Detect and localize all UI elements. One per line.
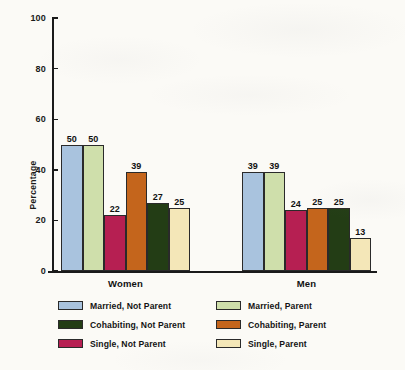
y-tick-mark [52,68,58,69]
legend-label: Cohabiting, Parent [248,320,326,330]
bar: 25 [169,208,191,271]
bar-value-label: 22 [110,204,120,214]
bar-value-label: 39 [131,161,141,171]
legend-item: Married, Not Parent [58,296,210,315]
bar: 25 [307,208,329,271]
legend-swatch [216,339,241,348]
bar: 50 [83,145,105,272]
bar: 39 [242,172,264,271]
legend-swatch [216,301,241,310]
bar-value-label: 25 [174,197,184,207]
bar: 39 [264,172,286,271]
bar: 27 [147,203,169,271]
bar-value-label: 50 [88,134,98,144]
bar-value-label: 25 [334,197,344,207]
bar: 24 [285,210,307,271]
legend-item: Single, Parent [216,334,368,353]
y-tick-mark [52,119,58,120]
y-tick-mark [52,220,58,221]
bar-value-label: 24 [291,199,301,209]
legend-label: Single, Parent [248,339,307,349]
legend-label: Married, Parent [248,301,312,311]
bar: 13 [350,238,372,271]
bar: 22 [104,215,126,271]
y-tick-mark [52,169,58,170]
y-tick-label: 60 [36,114,46,124]
legend-swatch [216,320,241,329]
bar-value-label: 13 [355,227,365,237]
legend-swatch [58,339,83,348]
bar: 25 [328,208,350,271]
legend-item: Married, Parent [216,296,368,315]
y-axis-line [52,18,54,271]
bar-value-label: 39 [269,161,279,171]
y-tick-label: 20 [36,215,46,225]
plot-area: 020406080100 505022392725Women3939242525… [52,18,377,271]
y-tick-label: 0 [41,266,46,276]
chart-legend: Married, Not ParentMarried, ParentCohabi… [58,296,388,353]
bar: 39 [126,172,148,271]
y-tick-mark [52,17,58,18]
legend-swatch [58,301,83,310]
x-tick-label: Women [108,278,143,289]
legend-label: Single, Not Parent [90,339,166,349]
bar-value-label: 39 [248,161,258,171]
y-tick-label: 40 [36,165,46,175]
chart-page: Percentage 020406080100 505022392725Wome… [0,0,405,370]
legend-swatch [58,320,83,329]
legend-label: Married, Not Parent [90,301,171,311]
legend-item: Single, Not Parent [58,334,210,353]
bar-value-label: 25 [312,197,322,207]
y-tick-label: 80 [36,64,46,74]
y-tick-mark [52,270,58,271]
legend-label: Cohabiting, Not Parent [90,320,185,330]
y-tick-label: 100 [30,13,46,23]
bar-value-label: 27 [153,192,163,202]
bar-value-label: 50 [67,134,77,144]
bar: 50 [61,145,83,272]
bar-group-men: 393924252513Men [242,18,371,271]
bar-group-women: 505022392725Women [61,18,190,271]
x-axis-line [48,271,377,273]
legend-item: Cohabiting, Not Parent [58,315,210,334]
x-tick-label: Men [297,278,317,289]
legend-item: Cohabiting, Parent [216,315,368,334]
